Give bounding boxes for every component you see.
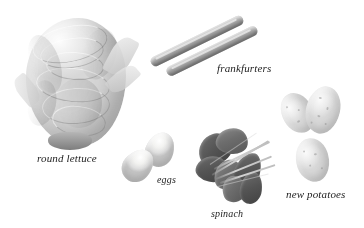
round-lettuce-image [18,14,138,150]
label-spinach: spinach [211,209,243,219]
new-potatoes-image [282,86,356,184]
label-eggs: eggs [157,175,176,185]
label-frankfurters: frankfurters [217,63,271,74]
label-round-lettuce: round lettuce [37,153,97,164]
potato-3 [292,135,333,185]
frankfurters-image [142,12,272,90]
spinach-image [196,126,282,208]
lettuce-stem [48,132,92,150]
illustration-plate: round lettuce frankfurters eggs spinach [0,0,364,228]
label-new-potatoes: new potatoes [286,189,346,200]
